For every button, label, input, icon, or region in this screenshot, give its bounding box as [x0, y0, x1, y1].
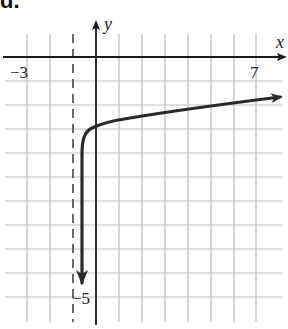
- function-curve: [82, 97, 280, 283]
- y-tick-label-neg5: −5: [72, 289, 90, 308]
- part-label: d.: [0, 0, 20, 14]
- chart-svg: x y −3 7 −5: [0, 0, 288, 329]
- graph-figure: d.: [0, 0, 288, 329]
- y-axis-label: y: [102, 14, 112, 34]
- x-tick-label-7: 7: [250, 63, 259, 82]
- x-tick-label-neg3: −3: [10, 63, 28, 82]
- grid: [5, 34, 282, 322]
- x-axis-label: x: [275, 32, 284, 52]
